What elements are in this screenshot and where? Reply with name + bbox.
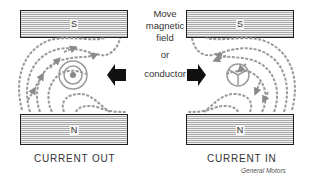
instruction-line-magnetic: magnetic xyxy=(140,20,190,31)
instruction-line-field: field xyxy=(140,32,190,43)
credit-text: General Motors xyxy=(241,167,286,174)
instruction-line-or: or xyxy=(140,49,190,60)
caption-current-out: CURRENT OUT xyxy=(34,153,115,164)
right-conductor xyxy=(227,64,249,86)
left-pointing-arrow xyxy=(107,64,126,86)
instruction-line-conductor: conductor xyxy=(140,68,190,79)
left-conductor xyxy=(59,61,87,89)
instruction-line-move: Move xyxy=(140,8,190,19)
caption-current-in: CURRENT IN xyxy=(207,153,276,164)
